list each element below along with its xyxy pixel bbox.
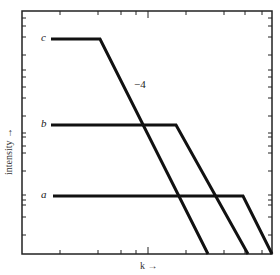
y-axis-label: intensity → [3,128,14,175]
series-line-c [51,39,208,254]
series-label-b: b [41,117,47,129]
series-line-a [53,196,272,254]
series-line-b [51,125,248,254]
slope-annotation: −4 [134,78,146,90]
x-axis-label: k → [140,260,158,271]
series-label-a: a [41,188,47,200]
series-label-c: c [41,31,46,43]
data-series [51,39,272,254]
